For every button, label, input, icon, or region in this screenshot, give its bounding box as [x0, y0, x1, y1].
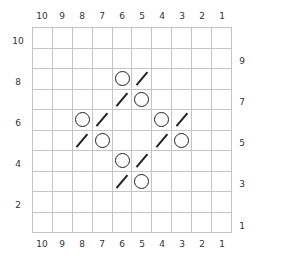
col-label: 6 — [112, 239, 132, 249]
chart-cell — [192, 131, 212, 152]
chart-cell — [192, 110, 212, 131]
chart-cell — [212, 213, 232, 234]
chart-cell — [212, 131, 232, 152]
chart-cell — [152, 131, 172, 152]
row-label: 1 — [232, 221, 252, 231]
chart-cell — [172, 172, 192, 193]
chart-cell — [113, 192, 133, 213]
chart-cell — [132, 28, 152, 49]
chart-cell — [53, 69, 73, 90]
chart-cell — [33, 69, 53, 90]
row-label: 7 — [232, 97, 252, 107]
row-label: 10 — [8, 36, 28, 46]
k2tog-slash-icon — [116, 92, 128, 106]
chart-cell — [192, 213, 212, 234]
chart-cell — [132, 172, 152, 193]
chart-cell — [132, 110, 152, 131]
chart-cell — [33, 192, 53, 213]
chart-cell — [113, 49, 133, 70]
chart-cell — [132, 131, 152, 152]
chart-cell — [152, 213, 172, 234]
chart-cell — [113, 69, 133, 90]
chart-cell — [152, 192, 172, 213]
k2tog-slash-icon — [96, 113, 108, 127]
chart-cell — [132, 69, 152, 90]
chart-cell — [132, 213, 152, 234]
chart-cell — [53, 110, 73, 131]
chart-cell — [93, 90, 113, 111]
chart-cell — [192, 151, 212, 172]
chart-cell — [73, 151, 93, 172]
chart-cell — [192, 49, 212, 70]
k2tog-slash-icon — [76, 133, 88, 147]
chart-cell — [113, 110, 133, 131]
k2tog-slash-icon — [136, 72, 148, 86]
yarn-over-circle-icon — [154, 112, 169, 127]
chart-cell — [192, 28, 212, 49]
chart-cell — [113, 28, 133, 49]
yarn-over-circle-icon — [115, 153, 130, 168]
k2tog-slash-icon — [136, 154, 148, 168]
chart-cell — [113, 151, 133, 172]
chart-cell — [152, 49, 172, 70]
chart-cell — [152, 69, 172, 90]
yarn-over-circle-icon — [75, 112, 90, 127]
row-label: 2 — [8, 200, 28, 210]
chart-cell — [53, 49, 73, 70]
chart-cell — [212, 69, 232, 90]
chart-cell — [152, 172, 172, 193]
chart-cell — [93, 49, 113, 70]
col-label: 1 — [212, 11, 232, 21]
chart-cell — [132, 49, 152, 70]
chart-cell — [93, 28, 113, 49]
col-label: 7 — [92, 239, 112, 249]
chart-cell — [33, 213, 53, 234]
chart-cell — [192, 172, 212, 193]
chart-cell — [113, 90, 133, 111]
k2tog-slash-icon — [116, 174, 128, 188]
col-label: 10 — [32, 239, 52, 249]
col-label: 4 — [152, 239, 172, 249]
k2tog-slash-icon — [176, 113, 188, 127]
col-label: 3 — [172, 239, 192, 249]
chart-cell — [73, 192, 93, 213]
yarn-over-circle-icon — [95, 133, 110, 148]
yarn-over-circle-icon — [115, 71, 130, 86]
chart-cell — [93, 69, 113, 90]
chart-cell — [192, 90, 212, 111]
chart-cell — [152, 151, 172, 172]
chart-cell — [172, 110, 192, 131]
chart-cell — [212, 28, 232, 49]
chart-cell — [132, 90, 152, 111]
chart-cell — [73, 110, 93, 131]
chart-cell — [192, 192, 212, 213]
chart-cell — [172, 192, 192, 213]
chart-cell — [212, 49, 232, 70]
chart-cell — [33, 28, 53, 49]
chart-cell — [152, 90, 172, 111]
chart-cell — [53, 151, 73, 172]
col-label: 9 — [52, 239, 72, 249]
chart-cell — [212, 192, 232, 213]
col-label: 1 — [212, 239, 232, 249]
chart-cell — [172, 69, 192, 90]
col-label: 3 — [172, 11, 192, 21]
col-label: 10 — [32, 11, 52, 21]
row-label: 4 — [8, 159, 28, 169]
yarn-over-circle-icon — [134, 174, 149, 189]
chart-cell — [33, 131, 53, 152]
row-label: 8 — [8, 77, 28, 87]
chart-cell — [212, 151, 232, 172]
row-label: 9 — [232, 56, 252, 66]
chart-cell — [33, 49, 53, 70]
col-label: 5 — [132, 11, 152, 21]
chart-grid — [32, 27, 232, 233]
chart-cell — [113, 131, 133, 152]
chart-cell — [152, 110, 172, 131]
yarn-over-circle-icon — [174, 133, 189, 148]
chart-cell — [73, 28, 93, 49]
chart-cell — [172, 28, 192, 49]
chart-cell — [93, 131, 113, 152]
chart-cell — [172, 151, 192, 172]
yarn-over-circle-icon — [134, 92, 149, 107]
